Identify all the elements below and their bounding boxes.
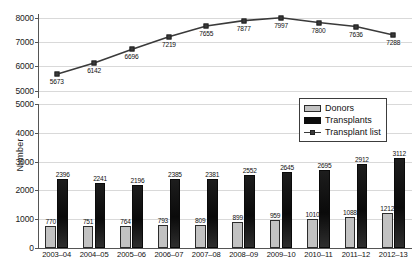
- x-axis: 2003–042004–052005–062006–072007–082008–…: [38, 250, 412, 264]
- legend-item-transplants[interactable]: Transplants: [304, 114, 381, 126]
- transplants-bar[interactable]: [207, 179, 218, 248]
- transplants-bar-label: 2396: [52, 171, 73, 178]
- transplants-bar-label: 2381: [202, 171, 223, 178]
- y-tick-label: 5000: [0, 100, 34, 108]
- x-tick-label: 2008–09: [229, 250, 258, 259]
- x-tick-label: 2007–08: [192, 250, 221, 259]
- transplant-list-swatch-icon: [304, 129, 321, 136]
- top-panel: 5000600070008000567361426696721976557877…: [38, 14, 412, 98]
- legend-label: Donors: [325, 103, 354, 113]
- y-tick-label: 3000: [0, 158, 34, 166]
- transplants-bar-label: 3112: [389, 150, 410, 157]
- data-point-marker[interactable]: [204, 24, 209, 29]
- data-point-label: 7655: [199, 30, 213, 37]
- donors-bar[interactable]: [120, 226, 131, 248]
- transplants-bar[interactable]: [357, 164, 368, 248]
- legend-label: Transplant list: [325, 127, 381, 137]
- transplants-bar-label: 2552: [239, 167, 260, 174]
- transplants-bar-label: 2196: [127, 177, 148, 184]
- data-point-marker[interactable]: [129, 47, 134, 52]
- x-tick-label: 2010–11: [304, 250, 332, 259]
- y-tick-label: 6000: [0, 62, 34, 70]
- legend: Donors Transplants Transplant list: [299, 98, 387, 142]
- transplants-bar-label: 2695: [314, 162, 335, 169]
- transplants-bar[interactable]: [319, 170, 330, 248]
- transplants-bar[interactable]: [57, 179, 68, 248]
- data-point-marker[interactable]: [241, 18, 246, 23]
- data-point-label: 7997: [274, 22, 288, 29]
- data-point-marker[interactable]: [279, 15, 284, 20]
- data-point-marker[interactable]: [166, 34, 171, 39]
- legend-item-transplant-list[interactable]: Transplant list: [304, 126, 381, 138]
- transplants-bar[interactable]: [282, 172, 293, 248]
- donors-bar[interactable]: [382, 213, 393, 248]
- donors-swatch-icon: [304, 105, 321, 112]
- x-tick-label: 2011–12: [342, 250, 370, 259]
- donors-bar[interactable]: [345, 217, 356, 248]
- data-point-label: 7877: [237, 25, 251, 32]
- data-point-label: 6142: [87, 67, 101, 74]
- x-tick-label: 2006–07: [154, 250, 183, 259]
- transplants-bar-label: 2385: [165, 171, 186, 178]
- donors-bar[interactable]: [158, 225, 169, 248]
- transplants-bar-label: 2645: [277, 164, 298, 171]
- transplants-bar-label: 2912: [352, 156, 373, 163]
- x-tick-label: 2009–10: [267, 250, 296, 259]
- transplants-bar[interactable]: [95, 183, 106, 248]
- x-tick-label: 2012–13: [379, 250, 408, 259]
- y-axis-line: [38, 104, 39, 248]
- donors-bar[interactable]: [307, 219, 318, 248]
- data-point-marker[interactable]: [92, 60, 97, 65]
- y-tick-label: 5000: [0, 87, 34, 95]
- top-plot-area: 5000600070008000567361426696721976557877…: [38, 14, 412, 98]
- donors-bar[interactable]: [195, 225, 206, 248]
- transplants-bar[interactable]: [170, 179, 181, 248]
- data-point-marker[interactable]: [391, 32, 396, 37]
- data-point-marker[interactable]: [353, 24, 358, 29]
- data-point-marker[interactable]: [54, 72, 59, 77]
- data-point-marker[interactable]: [316, 20, 321, 25]
- transplants-bar-label: 2241: [90, 175, 111, 182]
- x-axis-line: [38, 248, 412, 249]
- y-tick-label: 2000: [0, 186, 34, 194]
- x-tick-label: 2003–04: [42, 250, 71, 259]
- x-tick-label: 2004–05: [80, 250, 109, 259]
- donors-bar[interactable]: [232, 222, 243, 248]
- data-point-label: 7636: [349, 31, 363, 38]
- donors-bar[interactable]: [270, 220, 281, 248]
- legend-item-donors[interactable]: Donors: [304, 102, 381, 114]
- y-tick-label: 1000: [0, 215, 34, 223]
- y-tick-label: 7000: [0, 38, 34, 46]
- x-tick-label: 2005–06: [117, 250, 146, 259]
- transplants-bar[interactable]: [244, 175, 255, 248]
- data-point-label: 7219: [162, 41, 176, 48]
- data-point-label: 7288: [386, 39, 400, 46]
- transplants-bar[interactable]: [394, 158, 405, 248]
- transplants-bar[interactable]: [132, 185, 143, 248]
- data-point-label: 6696: [125, 53, 139, 60]
- y-tick-label: 0: [0, 244, 34, 252]
- chart-figure: Number 500060007000800056736142669672197…: [0, 0, 417, 273]
- donors-bar[interactable]: [45, 226, 56, 248]
- donors-bar[interactable]: [83, 226, 94, 248]
- data-point-label: 5673: [50, 78, 64, 85]
- y-tick-label: 4000: [0, 129, 34, 137]
- transplants-swatch-icon: [304, 117, 321, 124]
- data-point-label: 7800: [312, 27, 326, 34]
- legend-label: Transplants: [325, 115, 372, 125]
- y-tick-label: 8000: [0, 14, 34, 22]
